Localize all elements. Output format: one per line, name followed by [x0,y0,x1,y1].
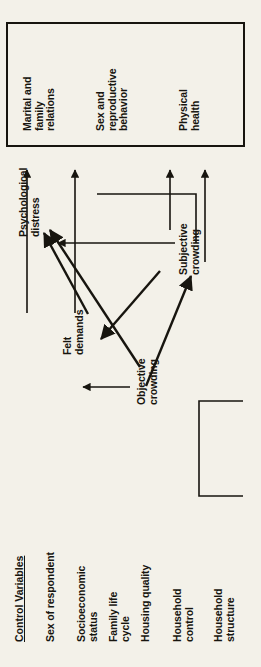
control-variable-housing-quality: Housing quality [140,565,152,642]
node-psychological-distress: Psychological distress [18,168,41,237]
outcome-item-sex-reproductive-behavior: Sex and reproductive behavior [95,69,130,131]
outcome-item-marital-family-relations: Marital and family relations [22,77,57,131]
control-variables-heading: Control Variables [14,556,26,642]
control-variable-family-life-cycle: Family life cycle [108,592,131,642]
node-subjective-crowding: Subjective crowding [178,223,201,275]
control-variable-household-structure: Household structure [213,589,236,642]
control-variable-sex-of-respondent: Sex of respondent [45,552,57,642]
control-variable-household-control: Household control [172,589,195,642]
outcome-item-physical-health: Physical health [178,89,201,131]
controls-bracket [199,401,243,496]
node-felt-demands: Felt demands [62,310,85,355]
node-objective-crowding: Objective crowding [136,359,159,405]
edge-felt-to-distress [44,233,88,314]
edge-subjective-to-felt [101,271,160,339]
path-diagram: Marital and family relations Sex and rep… [0,0,261,667]
figure-rotation-wrapper: Marital and family relations Sex and rep… [0,0,261,667]
control-variable-socioeconomic-status: Socioeconomic status [76,566,99,642]
